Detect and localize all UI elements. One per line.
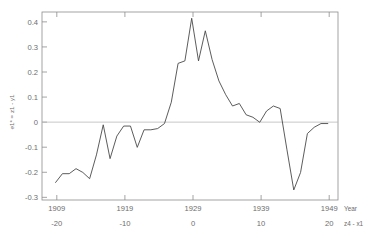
y-tick-label: 0 (34, 118, 38, 127)
x-axis-title-index: z4 - x1 (344, 220, 364, 227)
x-tick-year: 1939 (253, 204, 270, 213)
y-tick-label: 0.1 (27, 93, 38, 102)
y-tick-label: -0.3 (25, 193, 38, 202)
x-tick-year: 1909 (48, 204, 65, 213)
y-tick-label: 0.2 (27, 68, 38, 77)
y-axis-ticks (42, 22, 47, 197)
x-tick-index: 10 (257, 219, 265, 228)
y-tick-label: -0.2 (25, 168, 38, 177)
x-tick-year: 1919 (116, 204, 133, 213)
x-tick-index: 20 (325, 219, 333, 228)
x-tick-index: 0 (191, 219, 195, 228)
x-axis-index-labels: -20 -10 0 10 20 z4 - x1 (51, 219, 363, 228)
y-tick-label: 0.3 (27, 43, 38, 52)
y-axis-labels: 0.4 0.3 0.2 0.1 0 -0.1 -0.2 -0.3 (25, 18, 38, 203)
x-axis-ticks-bottom (57, 195, 329, 200)
residual-line-chart: 0.4 0.3 0.2 0.1 0 -0.1 -0.2 -0.3 e1* = z… (0, 0, 369, 241)
x-axis-year-labels: 1909 1919 1929 1939 1949 Year (48, 204, 357, 213)
x-tick-index: -10 (119, 219, 130, 228)
x-tick-year: 1929 (185, 204, 202, 213)
y-tick-label: -0.1 (25, 143, 38, 152)
x-tick-index: -20 (51, 219, 62, 228)
y-axis-title-text: e1* = z1 - y1 (8, 94, 15, 129)
chart-figure: 0.4 0.3 0.2 0.1 0 -0.1 -0.2 -0.3 e1* = z… (0, 0, 369, 241)
x-axis-title-year: Year (344, 205, 358, 212)
y-axis-title: e1* = z1 - y1 (8, 94, 15, 129)
plot-frame (42, 12, 338, 200)
x-tick-year: 1949 (321, 204, 338, 213)
x-axis-ticks-top (57, 12, 329, 17)
y-tick-label: 0.4 (27, 18, 38, 27)
data-series-line (56, 18, 328, 190)
